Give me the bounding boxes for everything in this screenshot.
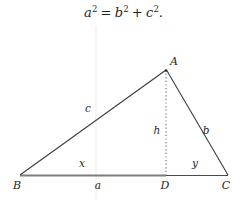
triangle-diagram: A B C D c b h x y a <box>0 0 247 200</box>
vertex-label-d: D <box>160 179 170 192</box>
segment-label-x: x <box>79 157 85 169</box>
side-label-c: c <box>85 102 91 114</box>
vertex-dot-a <box>165 69 168 72</box>
altitude-label-h: h <box>154 124 161 136</box>
side-label-b: b <box>203 124 210 136</box>
vertex-label-c: C <box>222 179 231 192</box>
base-label-a: a <box>95 179 101 191</box>
vertex-label-b: B <box>12 179 21 192</box>
side-segment-ba <box>20 70 166 175</box>
figure-root: a2=b2+c2. A B C D c b h x y a <box>0 0 247 200</box>
segment-label-y: y <box>191 157 199 169</box>
vertex-label-a: A <box>169 55 178 68</box>
